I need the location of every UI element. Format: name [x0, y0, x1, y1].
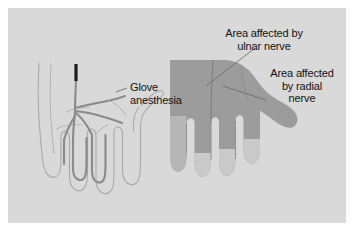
label-ulnar-line1: Area affected by — [225, 27, 303, 39]
right-hand-little-finger — [170, 116, 187, 172]
fingertip-index — [195, 153, 212, 177]
label-radial-nerve: Area affectedby radialnerve — [252, 67, 346, 105]
left-hand-thumb-line — [134, 107, 140, 132]
label-glove-anesthesia: Gloveanesthesia — [130, 81, 182, 106]
label-ulnar-line2: ulnar nerve — [237, 40, 290, 52]
label-radial-line2: by radial — [282, 80, 322, 92]
label-glove-line2: anesthesia — [130, 94, 182, 106]
label-glove-line1: Glove — [130, 81, 158, 93]
label-ulnar-nerve: Area affected byulnar nerve — [204, 27, 324, 52]
label-radial-line3: nerve — [289, 92, 316, 104]
label-radial-line1: Area affected — [270, 67, 333, 79]
fingertip-ring — [244, 139, 261, 164]
illustration-panel: Gloveanesthesia Area affected byulnar ne… — [8, 8, 346, 223]
figure-root: Gloveanesthesia Area affected byulnar ne… — [0, 0, 356, 236]
fingertip-middle — [219, 149, 236, 176]
left-hand-wrist-line — [50, 63, 54, 154]
leader-line-glove — [116, 88, 127, 92]
